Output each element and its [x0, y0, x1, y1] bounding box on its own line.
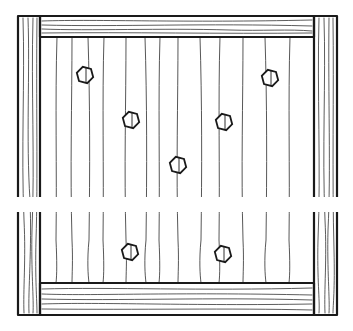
wood-panel-drawing [0, 0, 353, 331]
board-seam [103, 37, 104, 283]
left-stile [18, 16, 40, 315]
hex-bolt-icon [262, 70, 278, 86]
board-seam [289, 37, 290, 283]
board-seam [56, 37, 57, 283]
board-seam [145, 37, 147, 283]
hex-bolt-icon [170, 157, 186, 173]
board-seam [200, 37, 202, 283]
board-seam [242, 37, 243, 283]
right-stile [314, 16, 337, 315]
hex-bolt-icon [122, 244, 138, 260]
hex-bolt-icon [123, 112, 139, 128]
hex-bolt-icon [215, 246, 231, 262]
break-gap [0, 197, 353, 212]
hex-bolt-icon [77, 67, 93, 83]
top-rail [40, 16, 314, 37]
hex-bolt-icon [216, 114, 232, 130]
board-seam [71, 37, 72, 283]
bottom-rail [40, 283, 314, 315]
board-seam [159, 37, 160, 283]
